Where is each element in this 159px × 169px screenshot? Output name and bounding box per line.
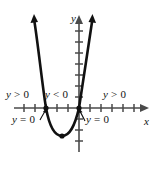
label-root-right-relation: = — [94, 113, 100, 125]
vertex-point — [59, 133, 64, 138]
curve-left-arrowhead — [31, 14, 39, 23]
y-axis-arrowhead — [75, 15, 83, 24]
graph-canvas — [0, 0, 159, 169]
x-axis-arrowhead — [140, 104, 149, 112]
label-right-positive-relation: > — [111, 88, 117, 100]
label-root-left-value: 0 — [29, 113, 35, 125]
label-root-left-relation: = — [20, 113, 26, 125]
curve-right-arrowhead — [89, 14, 97, 23]
y-axis-label: y — [71, 13, 76, 24]
x-axis-label: x — [144, 116, 149, 127]
label-root-right-value: 0 — [103, 113, 109, 125]
label-middle-negative-value: 0 — [62, 88, 68, 100]
label-middle-negative-relation: < — [53, 88, 59, 100]
label-left-positive-relation: > — [14, 88, 20, 100]
label-region-left-positive: y > 0 — [6, 89, 29, 100]
parabola-sign-chart-figure: y > 0 y < 0 y > 0 y = 0 y = 0 y x — [0, 0, 159, 169]
label-region-middle-negative: y < 0 — [45, 89, 68, 100]
label-left-positive-value: 0 — [23, 88, 29, 100]
label-middle-negative-symbol: y — [45, 88, 50, 100]
label-root-left-symbol: y — [12, 113, 17, 125]
label-root-right: y = 0 — [86, 114, 109, 125]
label-right-positive-symbol: y — [103, 88, 108, 100]
label-root-left: y = 0 — [12, 114, 35, 125]
label-left-positive-symbol: y — [6, 88, 11, 100]
label-right-positive-value: 0 — [120, 88, 126, 100]
label-root-right-symbol: y — [86, 113, 91, 125]
label-region-right-positive: y > 0 — [103, 89, 126, 100]
